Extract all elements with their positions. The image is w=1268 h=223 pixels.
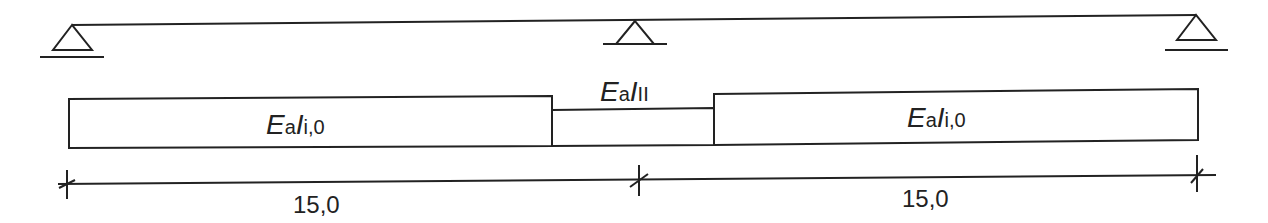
right-segment-label: EaIi,0 (907, 102, 966, 133)
beam-diagram: EaIi,0 EaIII EaIi,0 15,0 15,0 (0, 0, 1268, 223)
left-segment-label: EaIi,0 (266, 109, 325, 140)
middle-support-icon (603, 21, 667, 44)
middle-segment-bar (552, 108, 714, 146)
span-2-label: 15,0 (902, 185, 949, 212)
right-support-icon (1165, 15, 1228, 50)
dimension-line (58, 155, 1216, 199)
left-support-icon (40, 25, 104, 57)
span-1-label: 15,0 (293, 191, 340, 218)
middle-segment-label: EaIII (600, 76, 649, 107)
